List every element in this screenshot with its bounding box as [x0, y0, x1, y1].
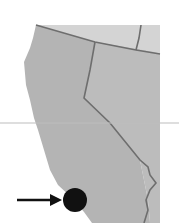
location-marker [63, 188, 87, 212]
arrow-head-icon [50, 194, 62, 206]
map [0, 0, 179, 223]
